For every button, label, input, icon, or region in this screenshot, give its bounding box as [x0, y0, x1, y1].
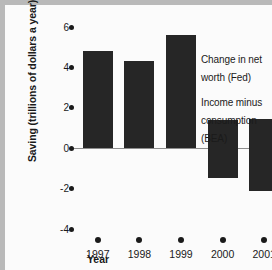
y-tick-label: -2 [39, 183, 69, 194]
chart-legend: Change in net worth (Fed)Income minus co… [189, 49, 272, 153]
y-tick-dot [69, 105, 74, 110]
y-tick-label: 2 [39, 102, 69, 113]
legend-item-0: Change in net worth (Fed) [189, 49, 272, 85]
y-tick-label: 0 [39, 143, 69, 154]
legend-swatch-icon [189, 94, 196, 101]
x-tick-dot [178, 237, 184, 243]
chart-figure: Saving (trillions of dollars a year) 642… [0, 0, 272, 270]
bar-1997 [83, 51, 113, 148]
legend-swatch-icon [189, 51, 196, 58]
y-tick-dot [69, 25, 74, 30]
x-tick-dot [136, 237, 142, 243]
y-tick-dot [69, 146, 74, 151]
bar-1998 [124, 61, 154, 148]
y-tick-dot [69, 65, 74, 70]
x-tick-label: 1999 [158, 248, 204, 260]
y-tick-dot [69, 227, 74, 232]
legend-label: Change in net worth (Fed) [201, 54, 262, 83]
x-tick-label: 2001 [241, 248, 272, 260]
x-axis-title: Year [63, 253, 133, 265]
y-tick-label: -4 [39, 224, 69, 235]
legend-label: Income minus consumption (BEA) [201, 97, 262, 144]
y-tick-label: 4 [39, 62, 69, 73]
y-tick-label: 6 [39, 22, 69, 33]
y-axis-title: Saving (trillions of dollars a year) [26, 0, 38, 171]
x-tick-dot [220, 237, 226, 243]
legend-item-1: Income minus consumption (BEA) [189, 92, 272, 146]
x-tick-dot [261, 237, 267, 243]
x-tick-label: 2000 [200, 248, 246, 260]
y-tick-dot [69, 186, 74, 191]
x-tick-dot [95, 237, 101, 243]
